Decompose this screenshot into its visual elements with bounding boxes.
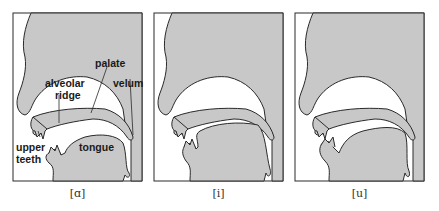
label-ridge: ridge: [55, 89, 81, 101]
label-upper: upper: [16, 141, 45, 153]
vocal-tract-diagram-i: [154, 13, 283, 181]
label-tongue: tongue: [79, 141, 114, 153]
vocal-tract-diagram-a: palate alveolar ridge velum upper teeth …: [13, 13, 142, 181]
label-teeth: teeth: [16, 153, 41, 165]
vocal-tract-diagram-u: [295, 13, 424, 181]
caption-i: [i]: [154, 187, 283, 200]
label-palate: palate: [95, 57, 126, 69]
vocal-tract-a-svg: palate alveolar ridge velum upper teeth …: [13, 13, 142, 181]
caption-a: [ɑ]: [13, 187, 142, 200]
label-alveolar: alveolar: [45, 77, 85, 89]
vocal-tract-i-svg: [154, 13, 283, 181]
label-velum: velum: [113, 77, 143, 89]
vocal-tract-u-svg: [295, 13, 424, 181]
caption-u: [u]: [295, 187, 424, 200]
